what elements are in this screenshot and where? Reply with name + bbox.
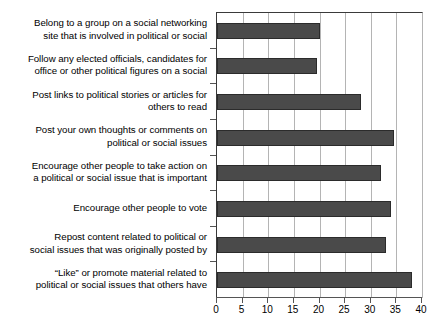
category-label: Post your own thoughts or comments on po…	[0, 119, 212, 155]
category-label: Encourage other people to vote	[0, 190, 212, 226]
plot-area	[216, 12, 423, 298]
category-label-text: Post links to political stories or artic…	[32, 89, 207, 114]
category-label-column: Belong to a group on a social networking…	[0, 12, 212, 297]
x-axis-tick	[370, 298, 371, 303]
x-axis-tick	[344, 298, 345, 303]
category-label-text: Post your own thoughts or comments on po…	[35, 124, 207, 149]
category-label-text: “Like” or promote material related to po…	[36, 267, 207, 292]
bar	[217, 94, 361, 110]
bar-slot	[217, 13, 422, 49]
horizontal-bar-chart: Belong to a group on a social networking…	[0, 0, 434, 327]
bar	[217, 165, 381, 181]
x-axis-tick-label: 15	[287, 304, 298, 316]
bar	[217, 23, 320, 39]
x-axis-tick-label: 0	[213, 304, 219, 316]
x-axis-tick	[293, 298, 294, 303]
x-axis-tick-label: 20	[313, 304, 324, 316]
category-label: Follow any elected officials, candidates…	[0, 48, 212, 84]
x-axis-tick-label: 35	[390, 304, 401, 316]
category-label-text: Repost content related to political or s…	[30, 231, 207, 256]
category-label: Encourage other people to take action on…	[0, 155, 212, 191]
x-axis-tick-label: 40	[415, 304, 426, 316]
x-axis-tick-label: 5	[239, 304, 245, 316]
category-label-text: Encourage other people to vote	[73, 202, 207, 214]
x-axis-tick	[242, 298, 243, 303]
gridline	[422, 13, 423, 298]
x-axis-tick	[216, 298, 217, 303]
bar	[217, 237, 386, 253]
category-label: Repost content related to political or s…	[0, 226, 212, 262]
category-label: Post links to political stories or artic…	[0, 83, 212, 119]
bar	[217, 58, 317, 74]
bar-slot	[217, 156, 422, 192]
bar-slot	[217, 191, 422, 227]
x-axis-tick-label: 10	[262, 304, 273, 316]
x-axis-tick-label: 25	[339, 304, 350, 316]
bar-slot	[217, 262, 422, 298]
bar-slot	[217, 120, 422, 156]
x-axis-tick	[319, 298, 320, 303]
category-label: Belong to a group on a social networking…	[0, 12, 212, 48]
bar-slot	[217, 49, 422, 85]
category-label-text: Belong to a group on a social networking…	[34, 17, 207, 42]
bars-layer	[217, 13, 422, 298]
x-axis-tick-marks	[216, 298, 422, 303]
x-axis-tick-labels: 0510152025303540	[216, 304, 422, 320]
x-axis-tick	[395, 298, 396, 303]
bar-slot	[217, 227, 422, 263]
category-label-text: Follow any elected officials, candidates…	[28, 53, 207, 78]
x-axis-tick	[421, 298, 422, 303]
bar-slot	[217, 84, 422, 120]
category-label: “Like” or promote material related to po…	[0, 261, 212, 297]
x-axis-tick	[267, 298, 268, 303]
bar	[217, 201, 391, 217]
bar	[217, 130, 394, 146]
bar	[217, 272, 412, 288]
x-axis-tick-label: 30	[364, 304, 375, 316]
category-label-text: Encourage other people to take action on…	[32, 160, 207, 185]
